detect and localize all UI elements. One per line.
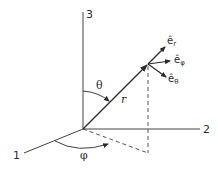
position-vector-r <box>83 65 147 129</box>
axis-1-label: 1 <box>13 150 20 161</box>
diagram-drawing <box>0 0 218 176</box>
e-phi-sub: φ <box>180 59 185 67</box>
projection-dashed-line <box>83 129 148 153</box>
axis-3-label: 3 <box>86 9 93 20</box>
theta-arc <box>83 91 109 101</box>
phi-label: φ <box>80 150 88 161</box>
theta-label: θ <box>96 80 103 91</box>
e-theta-label: êθ <box>168 74 178 86</box>
e-phi-label: êφ <box>174 55 185 67</box>
spherical-coordinates-diagram: 3 2 1 r θ φ êr êφ êθ <box>0 0 218 176</box>
r-label: r <box>121 94 126 105</box>
axis-2-label: 2 <box>203 124 210 135</box>
e-r-sub: r <box>173 40 176 48</box>
axis-1-line <box>24 129 83 153</box>
e-r-label: êr <box>167 36 176 48</box>
phi-arc <box>55 141 108 148</box>
unit-vector-e-theta <box>148 64 166 77</box>
e-theta-sub: θ <box>174 78 178 86</box>
